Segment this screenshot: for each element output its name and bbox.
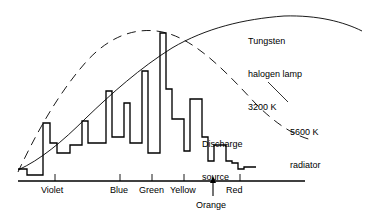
annotation-radiator-line-1: 5600 K	[290, 127, 321, 138]
spectral-chart-figure: Tungsten halogen lamp 3200 K 5600 K radi…	[0, 0, 365, 220]
annotation-discharge-line-1: Discharge	[202, 139, 243, 150]
axis-label-blue: Blue	[110, 185, 128, 195]
axis-label-yellow: Yellow	[170, 185, 196, 195]
axis-label-red: Red	[226, 185, 243, 195]
annotation-radiator-line-2: radiator	[290, 160, 321, 171]
annotation-discharge-line-2: source	[202, 172, 243, 183]
annotation-tungsten-line-1: Tungsten	[248, 36, 302, 47]
axis-label-violet: Violet	[41, 185, 63, 195]
annotation-tungsten-line-2: halogen lamp	[248, 69, 302, 80]
annotation-5600k-radiator: 5600 K radiator	[290, 105, 321, 193]
axis-label-orange: Orange	[196, 200, 226, 210]
axis-label-green: Green	[139, 185, 164, 195]
